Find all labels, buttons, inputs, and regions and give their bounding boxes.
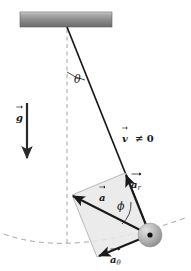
- acceleration-resultant-label: a: [99, 188, 105, 204]
- diagram-canvas: [0, 0, 191, 271]
- pendulum-bob: [138, 223, 162, 247]
- acceleration-tangential-subscript: θ: [116, 259, 120, 267]
- acceleration-symbol: a: [99, 193, 105, 203]
- acceleration-radial-subscript: r: [137, 184, 140, 192]
- acceleration-radial-label: ar: [131, 175, 141, 192]
- phi-angle-label: ϕ: [117, 201, 125, 212]
- gravity-vector-label: g: [16, 108, 23, 124]
- theta-angle-label: θ: [74, 74, 81, 85]
- gravity-symbol: g: [16, 113, 23, 123]
- acceleration-tangential-label: aθ: [110, 250, 121, 267]
- velocity-vector-symbol: v: [122, 129, 128, 145]
- ceiling-support: [20, 12, 112, 27]
- physics-diagram-figure: θ ϕ g v ≠ 0 ar a: [0, 0, 191, 271]
- velocity-relation-text: ≠ 0: [135, 133, 154, 144]
- velocity-condition-label: v ≠ 0: [122, 129, 154, 145]
